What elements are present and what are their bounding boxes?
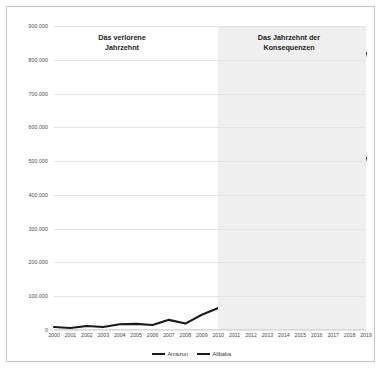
gridline — [54, 330, 366, 331]
x-axis-tick-label: 2005 — [130, 332, 142, 338]
y-axis-tick-label: 900.000 — [29, 23, 48, 29]
y-axis-tick-label: 100.000 — [29, 293, 48, 299]
y-axis-tick-label: 700.000 — [29, 91, 48, 97]
y-axis-tick-label: 600.000 — [29, 124, 48, 130]
y-axis-tick-label: 500.000 — [29, 158, 48, 164]
legend-item-amazon[interactable]: Amazon — [152, 351, 188, 357]
y-axis-tick-label: 200.000 — [29, 259, 48, 265]
y-axis-tick-label: 400.000 — [29, 192, 48, 198]
x-axis-tick-label: 2011 — [229, 332, 240, 338]
annotation-lost-decade: Das verlorene Jahrzehnt — [67, 33, 177, 52]
legend-swatch-icon — [152, 353, 165, 355]
gridline — [54, 262, 366, 263]
y-axis-tick-label: 300.000 — [29, 226, 48, 232]
gridline — [54, 161, 366, 162]
x-axis-tick-label: 2014 — [278, 332, 290, 338]
x-axis-tick-label: 2013 — [262, 332, 274, 338]
legend-item-alibaba[interactable]: Alibaba — [197, 351, 231, 357]
annotation-decade-of-consequences: Das Jahrzehnt der Konsequenzen — [225, 33, 353, 52]
plot-area — [54, 26, 366, 330]
x-axis-tick-label: 2019 — [360, 332, 372, 338]
x-axis-tick-label: 2004 — [114, 332, 126, 338]
gridline — [54, 127, 366, 128]
x-axis-tick-label: 2008 — [180, 332, 192, 338]
y-axis: 0100.000200.000300.000400.000500.000600.… — [7, 26, 51, 330]
chart-frame: 0100.000200.000300.000400.000500.000600.… — [6, 6, 375, 362]
chart-legend: AmazonAlibaba — [7, 351, 376, 357]
x-axis-tick-label: 2006 — [147, 332, 159, 338]
x-axis-tick-label: 2018 — [344, 332, 356, 338]
gridline — [54, 296, 366, 297]
x-axis-tick-label: 2001 — [65, 332, 77, 338]
gridlines-layer — [54, 26, 366, 330]
x-axis-tick-label: 2017 — [327, 332, 339, 338]
x-axis-tick-label: 2010 — [212, 332, 224, 338]
x-axis-tick-label: 2003 — [97, 332, 109, 338]
x-axis-tick-label: 2015 — [295, 332, 307, 338]
x-axis-tick-label: 2000 — [48, 332, 60, 338]
x-axis-tick-label: 2007 — [163, 332, 175, 338]
x-axis-tick-label: 2009 — [196, 332, 208, 338]
y-axis-tick-label: 800.000 — [29, 57, 48, 63]
gridline — [54, 195, 366, 196]
legend-label: Alibaba — [212, 351, 231, 357]
x-axis-line — [54, 329, 366, 330]
gridline — [54, 229, 366, 230]
x-axis-tick-label: 2012 — [245, 332, 257, 338]
gridline — [54, 60, 366, 61]
x-axis-tick-label: 2002 — [81, 332, 93, 338]
gridline — [54, 94, 366, 95]
legend-swatch-icon — [197, 353, 210, 355]
legend-label: Amazon — [167, 351, 188, 357]
x-axis-tick-label: 2016 — [311, 332, 323, 338]
x-axis: 2000200120022003200420052006200720082009… — [54, 332, 366, 344]
gridline — [54, 26, 366, 27]
